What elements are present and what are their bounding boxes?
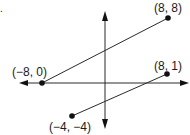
point-8-8 xyxy=(165,15,171,21)
coordinate-plane-figure: . (8, 8) (8, 1) (−8, 0) (−4, −4) xyxy=(0,0,190,135)
corner-mark: . xyxy=(0,3,3,14)
y-axis xyxy=(102,11,108,129)
point-neg4-neg4 xyxy=(69,113,75,119)
y-axis-bottom-arrow-icon xyxy=(102,119,108,129)
label-8-8: (8, 8) xyxy=(154,1,182,15)
segment-lower xyxy=(72,74,167,116)
label-neg4-neg4: (−4, −4) xyxy=(49,120,91,134)
label-8-1: (8, 1) xyxy=(154,59,182,73)
label-neg8-0: (−8, 0) xyxy=(12,65,47,79)
x-axis-left-arrow-icon xyxy=(19,80,28,86)
x-axis-right-arrow-icon xyxy=(180,80,189,86)
point-neg8-0 xyxy=(39,80,45,86)
y-axis-top-arrow-icon xyxy=(102,11,108,21)
